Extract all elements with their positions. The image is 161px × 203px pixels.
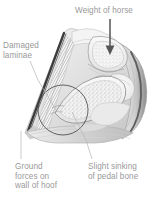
label-slight-sinking-of-pedal-bone: Slight sinking of pedal bone [88, 162, 138, 181]
label-weight-of-horse: Weight of horse [75, 6, 133, 16]
label-ground-forces-on-wall-of-hoof: Ground forces on wall of hoof [15, 162, 57, 191]
label-damaged-laminae: Damaged laminae [3, 41, 39, 60]
